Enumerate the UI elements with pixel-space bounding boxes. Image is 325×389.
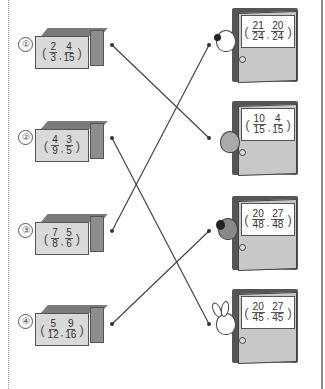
box-side [90,307,104,343]
fraction: 916 [65,319,76,340]
fraction-pair: ( 2048 , 2748 ) [243,209,292,230]
fraction-pair: ( 2045 , 2745 ) [243,302,292,323]
door-knob-icon [239,244,246,251]
fraction: 2124 [252,21,265,42]
item-number-3: ③ [18,223,33,238]
fraction-pair: ( 512 , 916 ) [39,319,84,340]
fraction-pair: ( 1015 , 415 ) [244,114,291,135]
fraction: 78 [51,228,59,249]
fraction-pair: ( 2124 , 2024 ) [243,21,292,42]
door-panel: ( 1015 , 415 ) [241,108,295,141]
door-panel: ( 2045 , 2745 ) [241,296,295,329]
fraction-pair: ( 49 , 35 ) [43,135,81,156]
door-4: ( 2045 , 2745 ) [232,289,300,365]
fraction: 1015 [253,114,266,135]
fraction: 2045 [252,302,265,323]
fraction-pair: ( 78 , 56 ) [43,228,81,249]
item-number-2: ② [18,130,33,145]
fraction: 415 [63,42,74,63]
connect-dot-box-1[interactable] [110,43,114,47]
box-2: ( 49 , 35 ) [35,121,103,165]
item-number-4: ④ [18,314,33,329]
connect-dot-box-3[interactable] [110,229,114,233]
box-3: ( 78 , 56 ) [35,214,103,258]
door-1: ( 2124 , 2024 ) [232,8,300,84]
fraction: 56 [65,228,73,249]
cat-icon [220,131,240,153]
box-4: ( 512 , 916 ) [35,305,103,349]
line-box4-door3 [112,231,209,324]
door-2: ( 1015 , 415 ) [232,101,300,177]
box-front: ( 23 , 415 ) [35,36,89,69]
door-knob-icon [239,56,246,63]
door-knob-icon [239,149,246,156]
black-dog-icon [218,218,238,240]
connect-dot-box-2[interactable] [110,136,114,140]
connect-dot-door-4[interactable] [207,322,211,326]
rabbit-icon [216,313,236,335]
box-side [90,123,104,159]
box-side [90,216,104,252]
line-box2-door4 [112,138,209,324]
fraction: 512 [48,319,59,340]
fraction-pair: ( 23 , 415 ) [41,42,83,63]
fraction: 49 [51,135,59,156]
fraction: 415 [272,114,283,135]
fraction: 2048 [252,209,265,230]
door-knob-icon [239,337,246,344]
fraction: 2748 [271,209,284,230]
fraction: 23 [49,42,57,63]
door-panel: ( 2124 , 2024 ) [241,15,295,48]
fraction: 35 [65,135,73,156]
connect-dot-door-2[interactable] [207,136,211,140]
fraction: 2024 [271,21,284,42]
box-front: ( 49 , 35 ) [35,129,89,162]
fraction: 2745 [271,302,284,323]
dog-icon [216,30,236,52]
connect-dot-door-1[interactable] [207,43,211,47]
connect-dot-box-4[interactable] [110,322,114,326]
line-box3-door1 [112,45,209,231]
box-front: ( 78 , 56 ) [35,222,89,255]
door-3: ( 2048 , 2748 ) [232,196,300,272]
box-front: ( 512 , 916 ) [35,313,89,346]
line-box1-door2 [112,45,209,138]
door-panel: ( 2048 , 2748 ) [241,203,295,236]
connect-dot-door-3[interactable] [207,229,211,233]
box-side [90,30,104,66]
item-number-1: ① [18,37,33,52]
box-1: ( 23 , 415 ) [35,28,103,72]
